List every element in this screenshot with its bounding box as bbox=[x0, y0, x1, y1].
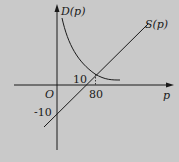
supply-label: S(p) bbox=[145, 18, 168, 31]
intersection-x-label: 80 bbox=[89, 88, 103, 101]
y-intercept-label: -10 bbox=[34, 106, 52, 119]
supply-demand-diagram: D(p) S(p) p O 10 80 -10 bbox=[0, 0, 179, 162]
demand-curve bbox=[62, 18, 120, 80]
supply-line bbox=[44, 24, 148, 127]
origin-label: O bbox=[45, 88, 54, 101]
x-axis-arrow-icon bbox=[166, 83, 174, 88]
x-axis-label: p bbox=[163, 89, 170, 102]
y-axis-arrow-icon bbox=[55, 4, 60, 12]
intersection-y-label: 10 bbox=[73, 73, 87, 86]
y-axis-label: D(p) bbox=[60, 5, 85, 18]
